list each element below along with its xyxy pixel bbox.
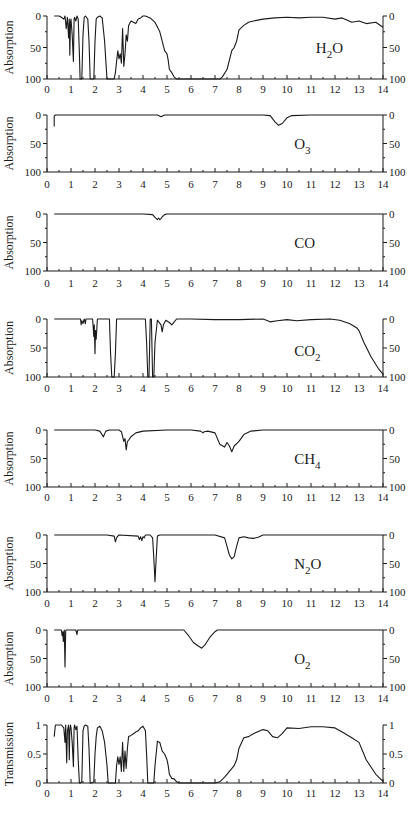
- x-tick-label: 7: [212, 83, 218, 95]
- x-tick-label: 10: [282, 787, 294, 799]
- x-tick-label: 12: [330, 83, 341, 95]
- x-tick-label: 12: [330, 692, 341, 704]
- y-axis-label: Absorption: [2, 632, 16, 686]
- x-tick-label: 0: [44, 692, 50, 704]
- spectrum-line-o2: [54, 630, 383, 667]
- y-tick-label-left: 100: [25, 265, 42, 277]
- y-tick-label-left: 0: [36, 529, 42, 541]
- x-tick-label: 13: [354, 382, 366, 394]
- x-tick-label: 14: [378, 83, 390, 95]
- x-tick-label: 4: [140, 597, 146, 609]
- x-tick-label: 2: [92, 692, 98, 704]
- x-tick-label: 4: [140, 491, 146, 503]
- panel-o2: 01234567891011121314005050100100Absorpti…: [2, 624, 406, 704]
- x-tick-label: 2: [92, 787, 98, 799]
- x-tick-label: 8: [236, 83, 242, 95]
- x-tick-label: 1: [68, 382, 74, 394]
- x-tick-label: 1: [68, 83, 74, 95]
- y-tick-label-left: 50: [30, 138, 42, 150]
- x-tick-label: 12: [330, 178, 341, 190]
- x-tick-label: 1: [68, 491, 74, 503]
- x-tick-label: 8: [236, 277, 242, 289]
- y-tick-label-right: 0: [389, 529, 395, 541]
- panel-n2o: 01234567891011121314005050100100Absorpti…: [2, 529, 406, 609]
- species-label: CO2: [294, 343, 320, 363]
- x-tick-label: 10: [282, 382, 294, 394]
- x-tick-label: 3: [116, 692, 122, 704]
- x-tick-label: 13: [354, 692, 366, 704]
- y-axis-label: Absorption: [2, 537, 16, 591]
- y-axis-label: Absorption: [2, 21, 16, 75]
- x-tick-label: 9: [260, 178, 266, 190]
- x-tick-label: 13: [354, 597, 366, 609]
- x-tick-label: 13: [354, 178, 366, 190]
- y-tick-label-left: 100: [25, 586, 42, 598]
- x-tick-label: 2: [92, 178, 98, 190]
- x-tick-label: 11: [306, 277, 317, 289]
- x-tick-label: 9: [260, 787, 266, 799]
- x-tick-label: 13: [354, 491, 366, 503]
- y-tick-label-left: 0.5: [27, 748, 41, 760]
- x-tick-label: 13: [354, 277, 366, 289]
- x-tick-label: 3: [116, 277, 122, 289]
- panel-o3: 01234567891011121314005050100100Absorpti…: [2, 109, 406, 190]
- y-tick-label-right: 100: [389, 371, 406, 383]
- x-tick-label: 4: [140, 692, 146, 704]
- x-tick-label: 4: [140, 83, 146, 95]
- x-tick-label: 0: [44, 597, 50, 609]
- y-tick-label-right: 50: [389, 653, 401, 665]
- y-axis-label: Absorption: [2, 117, 16, 171]
- x-tick-label: 2: [92, 597, 98, 609]
- y-tick-label-right: 100: [389, 681, 406, 693]
- x-tick-label: 12: [330, 277, 341, 289]
- x-tick-label: 5: [164, 382, 170, 394]
- y-axis-label: Absorption: [2, 432, 16, 486]
- y-tick-label-right: 100: [389, 166, 406, 178]
- y-tick-label-left: 100: [25, 681, 42, 693]
- x-tick-label: 14: [378, 597, 390, 609]
- x-tick-label: 10: [282, 692, 294, 704]
- x-tick-label: 5: [164, 178, 170, 190]
- x-tick-label: 3: [116, 178, 122, 190]
- y-axis-label: Transmission: [2, 722, 16, 786]
- y-tick-label-left: 0: [36, 10, 42, 22]
- x-tick-label: 8: [236, 692, 242, 704]
- x-tick-label: 7: [212, 382, 218, 394]
- x-tick-label: 4: [140, 382, 146, 394]
- panel-transmission: 01234567891011121314110.50.500Transmissi…: [2, 719, 403, 799]
- species-label: CO: [294, 235, 315, 251]
- y-tick-label-right: 50: [389, 237, 401, 249]
- y-tick-label-left: 0: [36, 624, 42, 636]
- x-tick-label: 7: [212, 277, 218, 289]
- x-tick-label: 9: [260, 277, 266, 289]
- x-tick-label: 5: [164, 597, 170, 609]
- x-tick-label: 8: [236, 787, 242, 799]
- x-tick-label: 3: [116, 491, 122, 503]
- x-tick-label: 1: [68, 178, 74, 190]
- x-tick-label: 5: [164, 277, 170, 289]
- panel-h2o: 01234567891011121314005050100100Absorpti…: [2, 10, 406, 95]
- x-tick-label: 1: [68, 277, 74, 289]
- x-tick-label: 10: [282, 178, 294, 190]
- x-tick-label: 7: [212, 787, 218, 799]
- y-tick-label-left: 50: [30, 653, 42, 665]
- x-tick-label: 7: [212, 178, 218, 190]
- y-tick-label-right: 100: [389, 265, 406, 277]
- x-tick-label: 3: [116, 382, 122, 394]
- species-label: N2O: [294, 556, 321, 576]
- x-tick-label: 5: [164, 491, 170, 503]
- x-tick-label: 9: [260, 83, 266, 95]
- species-label: O3: [294, 136, 311, 156]
- x-tick-label: 1: [68, 787, 74, 799]
- y-axis-label: Absorption: [2, 216, 16, 270]
- spectrum-line-o3: [54, 115, 383, 126]
- y-tick-label-right: 0: [389, 624, 395, 636]
- x-tick-label: 8: [236, 597, 242, 609]
- spectrum-line-co2: [54, 319, 383, 377]
- x-tick-label: 12: [330, 597, 341, 609]
- y-tick-label-right: 0: [389, 313, 395, 325]
- x-tick-label: 0: [44, 382, 50, 394]
- x-tick-label: 9: [260, 491, 266, 503]
- x-tick-label: 11: [306, 83, 317, 95]
- y-tick-label-right: 0: [389, 109, 395, 121]
